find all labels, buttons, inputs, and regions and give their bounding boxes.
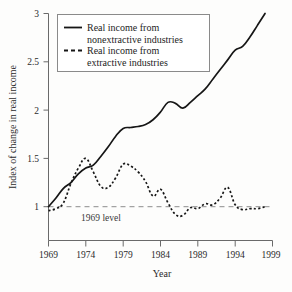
legend-entry-0-line-1: Real income from [87, 22, 159, 33]
x-tick-label-1974: 1974 [76, 250, 95, 260]
x-tick-label-1984: 1984 [151, 250, 170, 260]
y-tick-label-3: 3 [34, 9, 39, 19]
y-axis-ticks [44, 14, 49, 207]
legend-entry-1-line-2: extractive industries [87, 57, 168, 68]
x-axis-title: Year [153, 268, 172, 279]
chart-legend: Real income from nonextractive industrie… [58, 15, 210, 72]
x-tick-label-1969: 1969 [39, 250, 58, 260]
annotation-1969-level: 1969 level [81, 213, 121, 223]
y-tick-label-2-5: 2.5 [27, 57, 39, 67]
y-tick-label-1-5: 1.5 [27, 154, 39, 164]
x-axis-ticks [49, 241, 273, 247]
legend-entry-0-line-2: nonextractive industries [87, 34, 183, 45]
x-tick-label-1989: 1989 [188, 250, 207, 260]
line-chart-svg: 3 2.5 2 1.5 1 1969 1974 1979 1984 1989 1… [0, 0, 292, 292]
y-axis-title: Index of change in real income [7, 64, 18, 189]
x-tick-label-1999: 1999 [262, 250, 281, 260]
legend-entry-1-line-1: Real income from [87, 45, 159, 56]
x-tick-label-1994: 1994 [226, 250, 245, 260]
series-line-extractive [49, 158, 266, 216]
y-tick-label-1: 1 [34, 202, 39, 212]
y-tick-label-2: 2 [34, 106, 39, 116]
chart-figure: 3 2.5 2 1.5 1 1969 1974 1979 1984 1989 1… [0, 0, 292, 292]
x-tick-label-1979: 1979 [114, 250, 133, 260]
